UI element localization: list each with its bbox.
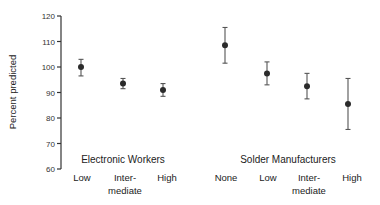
data-point <box>304 73 310 99</box>
data-point <box>160 84 166 97</box>
category-label-sm-none: None <box>215 172 238 183</box>
group-label-solder-manufacturers: Solder Manufacturers <box>240 154 336 165</box>
chart-canvas: Percent predicted 60708090100110120 Elec… <box>0 0 380 205</box>
y-tick-label: 90 <box>46 89 55 98</box>
y-tick-label: 100 <box>42 63 56 72</box>
category-label-ew-intermediate: Inter- <box>114 172 136 183</box>
category-label-ew-intermediate-2: mediate <box>108 185 142 196</box>
category-label-ew-high: High <box>157 172 177 183</box>
category-label-sm-intermediate-2: mediate <box>292 185 326 196</box>
y-axis: 60708090100110120 <box>42 12 61 174</box>
category-label-sm-high: High <box>342 172 362 183</box>
y-tick-label: 80 <box>46 114 55 123</box>
y-tick-label: 60 <box>46 165 55 174</box>
data-point <box>120 78 126 88</box>
category-label-sm-low: Low <box>259 172 277 183</box>
group-label-electronic-workers: Electronic Workers <box>81 154 165 165</box>
y-axis-title: Percent predicted <box>7 55 18 129</box>
data-point <box>264 62 270 85</box>
data-point <box>222 27 228 63</box>
y-tick-label: 110 <box>42 38 55 47</box>
category-label-ew-low: Low <box>73 172 91 183</box>
category-label-sm-intermediate: Inter- <box>298 172 320 183</box>
data-point <box>345 78 351 129</box>
y-tick-label: 120 <box>42 12 56 21</box>
data-point <box>78 59 84 76</box>
y-tick-label: 70 <box>46 140 55 149</box>
data-points <box>78 27 351 129</box>
